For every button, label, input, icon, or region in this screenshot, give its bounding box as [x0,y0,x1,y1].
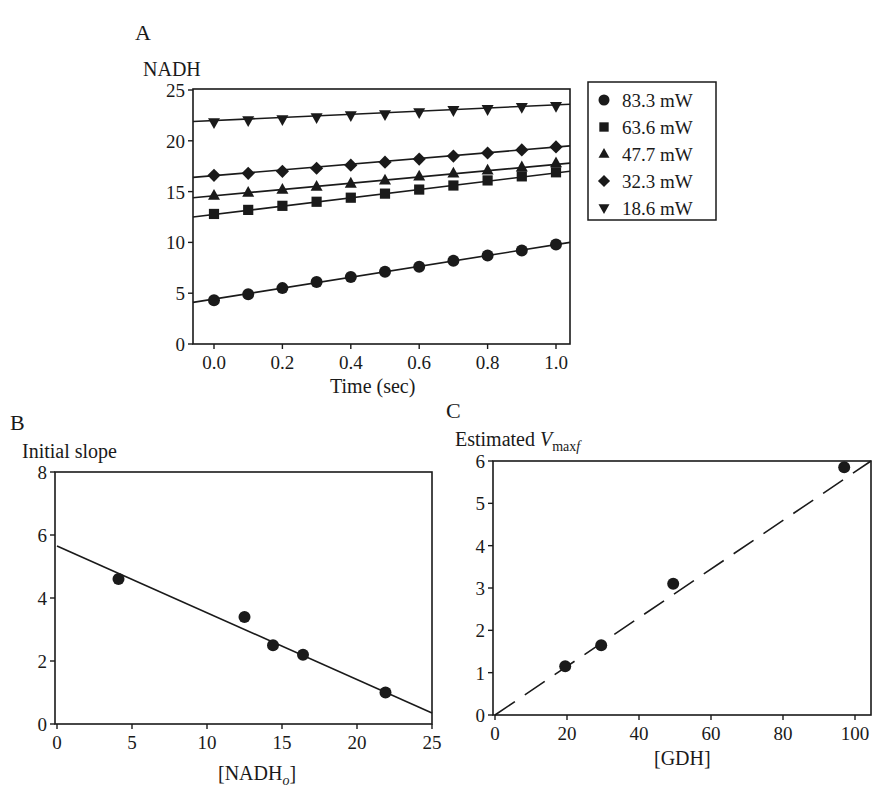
circle-marker [550,238,562,250]
panel-b-ylabel: Initial slope [22,440,117,463]
y-tick-label: 3 [476,578,486,599]
x-tick-label: 5 [127,732,137,753]
circle-marker [311,276,323,288]
triangle-down-marker [379,110,391,121]
diamond-marker [207,169,220,182]
panel-c-letter: C [446,398,461,423]
y-tick-label: 8 [38,462,48,483]
circle-marker [559,660,571,672]
y-tick-label: 15 [166,182,185,203]
x-tick-label: 60 [702,723,721,744]
triangle-up-marker [208,189,220,200]
circle-marker [447,255,459,267]
triangle-down-marker [516,103,528,114]
figure: A NADH Time (sec) 0.00.20.40.60.81.00510… [0,0,885,795]
circle-marker [242,288,254,300]
diamond-marker [447,149,460,162]
panel-b-letter: B [10,410,25,435]
triangle-down-marker [550,102,562,113]
y-tick-label: 5 [176,283,186,304]
diamond-marker [242,167,255,180]
circle-marker [267,639,279,651]
diamond-marker [276,165,289,178]
square-marker [414,184,424,194]
triangle-up-marker [447,167,459,178]
panel-b-xlabel: [NADHo] [218,762,296,788]
triangle-down-marker [482,105,494,116]
panel-a-plot: 0.00.20.40.60.81.00510152025 [166,80,570,373]
square-marker [517,171,527,181]
panel-a-legend: 83.3 mW63.6 mW47.7 mW32.3 mW18.6 mW [588,82,716,220]
y-tick-label: 4 [38,588,48,609]
x-tick-label: 20 [558,723,577,744]
diamond-marker [413,152,426,165]
triangle-up-marker [550,157,562,168]
legend-label: 47.7 mW [622,144,693,165]
circle-marker [516,245,528,257]
triangle-down-marker [208,118,220,129]
diamond-marker [515,143,528,156]
circle-marker [345,271,357,283]
circle-marker [595,639,607,651]
panel-a-ylabel: NADH [143,58,201,80]
plot-frame [193,89,570,344]
square-marker [312,197,322,207]
triangle-down-marker [311,113,323,124]
circle-marker [239,611,251,623]
x-tick-label: 20 [348,732,367,753]
legend-label: 63.6 mW [622,117,693,138]
x-tick-label: 0 [490,723,500,744]
x-tick-label: 0.6 [407,352,431,373]
x-tick-label: 0.0 [202,352,226,373]
y-tick-label: 0 [476,705,486,726]
square-marker [346,193,356,203]
diamond-marker [481,146,494,159]
circle-marker [599,95,610,106]
legend-label: 32.3 mW [622,171,693,192]
square-marker [599,122,608,131]
y-tick-label: 0 [176,334,186,355]
x-tick-label: 1.0 [544,352,568,373]
panel-c-xlabel: [GDH] [654,747,711,769]
square-marker [483,175,493,185]
circle-marker [838,461,850,473]
circle-marker [276,282,288,294]
y-tick-label: 6 [476,451,486,472]
square-marker [380,189,390,199]
square-marker [448,180,458,190]
fit-line-dashed [495,461,871,715]
square-marker [209,209,219,219]
y-tick-label: 1 [476,663,486,684]
square-marker [551,167,561,177]
circle-marker [297,649,309,661]
x-tick-label: 15 [273,732,292,753]
x-tick-label: 0.2 [271,352,295,373]
square-marker [243,205,253,215]
triangle-down-marker [413,108,425,119]
panel-b-plot: 051015202502468 [38,462,442,753]
circle-marker [380,687,392,699]
diamond-marker [549,140,562,153]
circle-marker [482,250,494,262]
circle-marker [413,261,425,273]
triangle-down-marker [276,115,288,126]
x-tick-label: 25 [423,732,442,753]
triangle-down-marker [447,106,459,117]
circle-marker [113,573,125,585]
plot-frame [55,472,432,724]
x-tick-label: 0 [52,732,62,753]
diamond-marker [344,159,357,172]
x-tick-label: 80 [774,723,793,744]
x-tick-label: 0.8 [476,352,500,373]
y-tick-label: 5 [476,493,486,514]
panel-c-ylabel: Estimated Vmaxf [455,428,582,454]
y-tick-label: 20 [166,131,185,152]
triangle-down-marker [242,116,254,127]
legend-label: 83.3 mW [622,90,693,111]
circle-marker [208,294,220,306]
triangle-up-marker [413,170,425,181]
triangle-up-marker [482,164,494,175]
y-tick-label: 25 [166,80,185,101]
circle-marker [379,266,391,278]
panel-a-xlabel: Time (sec) [330,375,415,398]
